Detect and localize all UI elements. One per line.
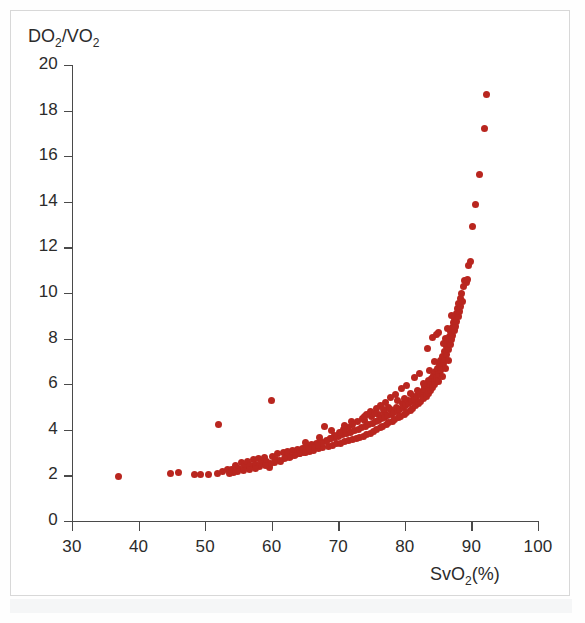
- x-tick-label: 50: [180, 537, 230, 557]
- x-tick-mark: [72, 521, 73, 531]
- scatter-point: [246, 466, 253, 473]
- scatter-point: [476, 171, 483, 178]
- y-tick-mark: [64, 202, 72, 203]
- scatter-point: [411, 374, 418, 381]
- scatter-point: [431, 358, 438, 365]
- scatter-point: [197, 471, 204, 478]
- x-tick-label: 90: [446, 537, 496, 557]
- y-tick-label: 6: [14, 373, 58, 393]
- y-tick-mark: [64, 247, 72, 248]
- scatter-point: [481, 125, 488, 132]
- scatter-point: [483, 91, 490, 98]
- scatter-point: [252, 465, 259, 472]
- x-tick-mark: [205, 521, 206, 531]
- y-tick-label: 18: [14, 100, 58, 120]
- scatter-point: [435, 329, 442, 336]
- y-tick-mark: [64, 339, 72, 340]
- scatter-point: [321, 423, 328, 430]
- y-tick-label: 16: [14, 145, 58, 165]
- x-tick-mark: [405, 521, 406, 531]
- y-tick-mark: [64, 111, 72, 112]
- scatter-point: [426, 367, 433, 374]
- x-tick-label: 40: [114, 537, 164, 557]
- scatter-point: [302, 439, 309, 446]
- scatter-point: [175, 469, 182, 476]
- x-tick-mark: [139, 521, 140, 531]
- scatter-point: [424, 345, 431, 352]
- scatter-point: [420, 380, 427, 387]
- x-tick-mark: [538, 521, 539, 531]
- scatter-point: [469, 223, 476, 230]
- scatter-point: [226, 470, 233, 477]
- scatter-point: [215, 421, 222, 428]
- x-tick-label: 60: [247, 537, 297, 557]
- y-tick-label: 12: [14, 236, 58, 256]
- scatter-point: [371, 410, 378, 417]
- scatter-point: [115, 473, 122, 480]
- scatter-point: [440, 340, 447, 347]
- x-tick-mark: [272, 521, 273, 531]
- y-tick-label: 0: [14, 510, 58, 530]
- x-tick-label: 70: [313, 537, 363, 557]
- y-tick-mark: [64, 430, 72, 431]
- scatter-point: [401, 395, 408, 402]
- y-tick-mark: [64, 293, 72, 294]
- x-tick-label: 100: [513, 537, 563, 557]
- scatter-point: [205, 471, 212, 478]
- scatter-plot-area: 0246810121416182030405060708090100: [0, 0, 585, 623]
- y-axis-line: [72, 65, 73, 522]
- y-tick-label: 14: [14, 191, 58, 211]
- scatter-point: [398, 385, 405, 392]
- x-tick-label: 80: [380, 537, 430, 557]
- scatter-point: [316, 434, 323, 441]
- scatter-point: [445, 357, 452, 364]
- y-tick-label: 4: [14, 419, 58, 439]
- y-tick-label: 20: [14, 54, 58, 74]
- y-tick-label: 10: [14, 282, 58, 302]
- scatter-point: [268, 397, 275, 404]
- scatter-point: [467, 258, 474, 265]
- scatter-point: [167, 470, 174, 477]
- scatter-point: [458, 290, 465, 297]
- y-tick-mark: [64, 156, 72, 157]
- x-tick-label: 30: [47, 537, 97, 557]
- scatter-point: [459, 298, 466, 305]
- scatter-point: [442, 365, 449, 372]
- x-axis-line: [72, 521, 539, 522]
- y-tick-mark: [64, 475, 72, 476]
- y-tick-mark: [64, 384, 72, 385]
- y-tick-label: 8: [14, 328, 58, 348]
- y-tick-label: 2: [14, 464, 58, 484]
- x-tick-mark: [471, 521, 472, 531]
- y-tick-mark: [64, 65, 72, 66]
- x-tick-mark: [338, 521, 339, 531]
- y-tick-mark: [64, 521, 72, 522]
- scatter-point: [361, 413, 368, 420]
- figure-container: DO2/VO2 SvO2(%) 024681012141618203040506…: [0, 0, 585, 623]
- scatter-point: [439, 373, 446, 380]
- scatter-point: [464, 276, 471, 283]
- scatter-point: [472, 201, 479, 208]
